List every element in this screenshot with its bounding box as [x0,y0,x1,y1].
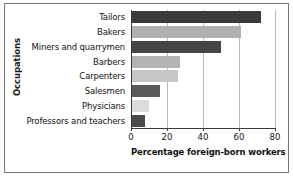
bar-row [131,69,275,84]
bar-series [131,10,275,128]
bar [131,115,145,127]
x-axis-tick [203,128,204,131]
x-axis-tick-label: 60 [234,132,245,142]
y-axis-tick-label: Physicians [18,99,128,114]
bar-row [131,54,275,69]
x-axis-tick-label: 0 [128,132,133,142]
bar [131,41,221,53]
bar-row [131,25,275,40]
bar [131,70,178,82]
plot-area [131,10,275,128]
bar [131,56,180,68]
bar-row [131,99,275,114]
y-axis-tick-label: Carpenters [18,69,128,84]
y-axis-tick-label: Salesmen [18,84,128,99]
bar-row [131,113,275,128]
chart-figure: Occupations TailorsBakersMiners and quar… [0,0,293,178]
gridline [275,10,276,128]
y-axis-tick-labels: TailorsBakersMiners and quarrymenBarbers… [18,10,128,128]
y-axis-line [131,10,132,129]
x-axis-tick [167,128,168,131]
x-axis-tick [275,128,276,131]
y-axis-tick-label: Tailors [18,10,128,25]
bar-row [131,84,275,99]
bar-row [131,10,275,25]
x-axis-tick-label: 80 [270,132,281,142]
x-axis-title: Percentage foreign-born workers [131,147,276,157]
bar-row [131,40,275,55]
y-axis-tick-label: Bakers [18,25,128,40]
x-axis-tick [239,128,240,131]
x-axis-tick-label: 20 [162,132,173,142]
bar [131,100,149,112]
bar [131,26,241,38]
y-axis-tick-label: Barbers [18,54,128,69]
x-axis-tick-label: 40 [198,132,209,142]
bar [131,11,261,23]
bar [131,85,160,97]
x-axis-tick [131,128,132,131]
y-axis-tick-label: Professors and teachers [18,113,128,128]
y-axis-tick-label: Miners and quarrymen [18,40,128,55]
